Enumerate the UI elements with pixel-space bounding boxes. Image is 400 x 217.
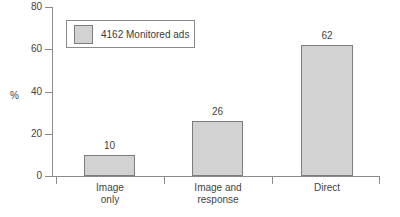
category-label-image-and-response: Image and response [168, 182, 268, 206]
legend-label: 4162 Monitored ads [101, 29, 189, 40]
y-tick-label-20: 20 [12, 129, 42, 139]
bar-value-direct: 62 [301, 31, 353, 41]
y-tick-40 [45, 92, 53, 93]
category-label-line-1: Image and [168, 182, 268, 194]
bar-value-image-and-response: 26 [192, 107, 243, 117]
bar-image-only [84, 155, 135, 176]
y-tick-label-0: 0 [12, 171, 42, 181]
chart-legend: 4162 Monitored ads [66, 20, 195, 48]
y-tick-60 [45, 49, 53, 50]
y-tick-label-80: 80 [12, 2, 42, 12]
y-tick-80 [45, 7, 53, 8]
x-tick-end [379, 176, 380, 184]
category-label-image-only: Image only [60, 182, 160, 206]
y-tick-label-40: 40 [12, 87, 42, 97]
category-label-line-2: response [168, 194, 268, 206]
y-tick-0 [45, 176, 53, 177]
category-label-line-2: only [60, 194, 160, 206]
category-label-line-1: Direct [277, 182, 377, 194]
bar-image-and-response [192, 121, 243, 176]
bar-direct [301, 45, 353, 176]
x-tick-div-1 [164, 176, 165, 184]
category-label-line-1: Image [60, 182, 160, 194]
bar-value-image-only: 10 [84, 141, 135, 151]
x-axis-line [52, 176, 380, 177]
x-tick-start [56, 176, 57, 184]
y-tick-label-60: 60 [12, 44, 42, 54]
bar-chart: 4162 Monitored ads % 80 60 40 20 0 10 26… [0, 0, 400, 217]
y-tick-20 [45, 134, 53, 135]
category-label-direct: Direct [277, 182, 377, 194]
legend-swatch-icon [74, 25, 93, 44]
x-tick-div-2 [272, 176, 273, 184]
